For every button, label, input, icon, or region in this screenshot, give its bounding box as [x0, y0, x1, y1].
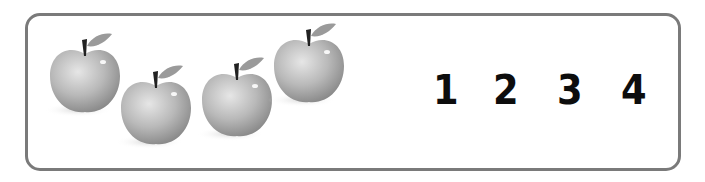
numeral-2: 2 — [493, 70, 519, 110]
apple-icon — [44, 34, 120, 118]
numeral-1: 1 — [433, 70, 459, 110]
numeral-3: 3 — [557, 70, 583, 110]
apple-icon — [115, 66, 191, 150]
apple-icon — [196, 58, 272, 142]
apple-icon — [268, 24, 344, 108]
numeral-4: 4 — [621, 70, 647, 110]
apples-group — [0, 0, 705, 182]
